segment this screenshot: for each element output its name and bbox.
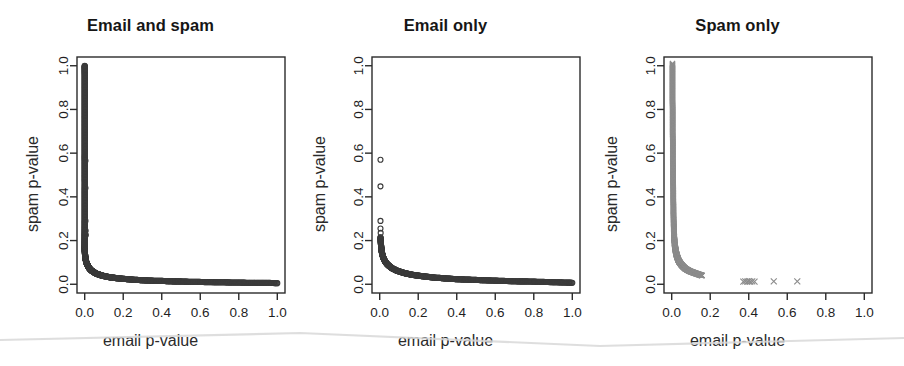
- y-tick-label: 0.4: [644, 187, 659, 206]
- y-axis-title: spam p-value: [24, 89, 42, 279]
- x-tick-label: 0.8: [524, 305, 543, 320]
- x-tick-label: 0.2: [114, 305, 133, 320]
- y-tick-label: 0.2: [57, 231, 72, 250]
- x-tick-label: 0.2: [409, 305, 428, 320]
- y-tick-label: 0.8: [644, 100, 659, 119]
- x-tick-label: 0.0: [75, 305, 94, 320]
- data-point: [794, 278, 800, 284]
- x-tick-label: 0.0: [370, 305, 389, 320]
- data-series: [670, 61, 800, 285]
- y-tick-label: 0.6: [352, 144, 367, 163]
- y-tick-label: 1.0: [644, 56, 659, 75]
- x-axis-title: email p-value: [0, 332, 301, 350]
- y-tick-label: 0.2: [644, 231, 659, 250]
- x-tick-label: 0.0: [662, 305, 681, 320]
- y-tick-label: 0.0: [352, 275, 367, 294]
- chart-panel-3: Spam only0.00.20.40.60.81.00.00.20.40.60…: [587, 0, 888, 366]
- y-tick-label: 0.2: [352, 231, 367, 250]
- figure-panel-group: Email and spam0.00.20.40.60.81.00.00.20.…: [0, 0, 904, 366]
- y-tick-label: 1.0: [57, 56, 72, 75]
- x-tick-label: 0.8: [229, 305, 248, 320]
- data-series: [378, 157, 575, 285]
- x-axis-title: email p-value: [587, 332, 888, 350]
- y-tick-label: 0.8: [352, 100, 367, 119]
- plot-frame: [664, 57, 872, 293]
- chart-panel-1: Email and spam0.00.20.40.60.81.00.00.20.…: [0, 0, 301, 366]
- y-axis-title: spam p-value: [311, 89, 329, 279]
- data-point: [378, 184, 383, 189]
- y-tick-label: 0.6: [57, 144, 72, 163]
- x-tick-label: 0.6: [778, 305, 797, 320]
- data-point: [378, 218, 383, 223]
- x-tick-label: 0.6: [191, 305, 210, 320]
- x-tick-label: 1.0: [855, 305, 874, 320]
- x-tick-label: 0.4: [152, 305, 171, 320]
- chart-panel-2: Email only0.00.20.40.60.81.00.00.20.40.6…: [295, 0, 596, 366]
- x-tick-label: 0.4: [447, 305, 466, 320]
- data-point: [378, 157, 383, 162]
- x-tick-label: 1.0: [268, 305, 287, 320]
- y-tick-label: 0.0: [644, 275, 659, 294]
- plot-frame: [372, 57, 580, 293]
- x-tick-label: 0.6: [486, 305, 505, 320]
- y-tick-label: 0.0: [57, 275, 72, 294]
- x-tick-label: 1.0: [563, 305, 582, 320]
- x-tick-label: 0.8: [816, 305, 835, 320]
- plot-area: 0.00.20.40.60.81.00.00.20.40.60.81.0: [0, 0, 301, 320]
- x-tick-label: 0.2: [701, 305, 720, 320]
- plot-area: 0.00.20.40.60.81.00.00.20.40.60.81.0: [295, 0, 596, 320]
- y-tick-label: 0.4: [352, 187, 367, 206]
- x-tick-label: 0.4: [739, 305, 758, 320]
- data-point: [771, 278, 777, 284]
- x-axis-title: email p-value: [295, 332, 596, 350]
- y-tick-label: 0.6: [644, 144, 659, 163]
- y-tick-label: 1.0: [352, 56, 367, 75]
- y-tick-label: 0.4: [57, 187, 72, 206]
- plot-area: 0.00.20.40.60.81.00.00.20.40.60.81.0: [587, 0, 888, 320]
- plot-frame: [77, 57, 285, 293]
- y-axis-title: spam p-value: [603, 89, 621, 279]
- y-tick-label: 0.8: [57, 100, 72, 119]
- data-series: [82, 63, 280, 285]
